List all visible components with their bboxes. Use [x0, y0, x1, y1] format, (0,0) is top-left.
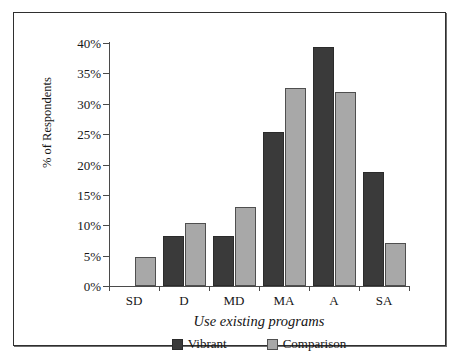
bar-comparison-d [185, 223, 206, 286]
x-category-label-a: A [309, 293, 359, 309]
chart-frame: % of Respondents 0%5%10%15%20%25%30%35%4… [13, 12, 446, 346]
bar-group-d [163, 43, 206, 286]
bar-vibrant-d [163, 236, 184, 286]
legend-item-vibrant[interactable]: Vibrant [172, 336, 227, 352]
y-tick-label: 25% [77, 128, 101, 141]
bar-vibrant-md [213, 236, 234, 286]
y-tick-label: 30% [77, 97, 101, 110]
x-category-label-sa: SA [359, 293, 409, 309]
y-tick-mark [103, 73, 109, 74]
x-category-label-d: D [159, 293, 209, 309]
legend-item-comparison[interactable]: Comparison [267, 336, 347, 352]
y-tick-label: 10% [77, 219, 101, 232]
y-tick-label: 40% [77, 37, 101, 50]
bar-group-sa [363, 43, 406, 286]
legend-swatch-icon [267, 339, 278, 350]
bar-vibrant-a [313, 47, 334, 286]
bar-group-sd [113, 43, 156, 286]
x-category-label-ma: MA [259, 293, 309, 309]
y-tick-label: 0% [84, 280, 101, 293]
x-tick-mark [259, 286, 260, 291]
legend-label: Vibrant [188, 336, 227, 352]
x-tick-mark [159, 286, 160, 291]
bar-vibrant-sa [363, 172, 384, 286]
y-tick-mark [103, 165, 109, 166]
y-tick-mark [103, 225, 109, 226]
bar-comparison-a [335, 92, 356, 286]
x-tick-mark [359, 286, 360, 291]
x-tick-mark [309, 286, 310, 291]
bar-vibrant-ma [263, 132, 284, 286]
x-tick-mark [209, 286, 210, 291]
legend-swatch-icon [172, 339, 183, 350]
bar-group-md [213, 43, 256, 286]
bar-group-a [313, 43, 356, 286]
y-tick-label: 35% [77, 67, 101, 80]
chart-figure: % of Respondents 0%5%10%15%20%25%30%35%4… [0, 0, 460, 359]
x-axis-title: Use existing programs [109, 313, 409, 330]
bar-comparison-ma [285, 88, 306, 286]
y-tick-mark [103, 104, 109, 105]
y-tick-label: 15% [77, 188, 101, 201]
x-tick-mark [109, 286, 110, 291]
legend-label: Comparison [283, 336, 347, 352]
x-tick-mark [409, 286, 410, 291]
bar-comparison-md [235, 207, 256, 286]
plot-area: 0%5%10%15%20%25%30%35%40% [109, 43, 409, 286]
x-category-label-md: MD [209, 293, 259, 309]
bar-comparison-sa [385, 243, 406, 286]
x-category-label-sd: SD [109, 293, 159, 309]
y-tick-label: 5% [84, 249, 101, 262]
y-axis-title: % of Respondents [40, 77, 55, 168]
chart-legend: VibrantComparison [109, 336, 409, 352]
y-tick-mark [103, 195, 109, 196]
y-tick-mark [103, 134, 109, 135]
bar-comparison-sd [135, 257, 156, 286]
y-tick-mark [103, 256, 109, 257]
y-tick-mark [103, 43, 109, 44]
y-tick-label: 20% [77, 158, 101, 171]
bar-group-ma [263, 43, 306, 286]
